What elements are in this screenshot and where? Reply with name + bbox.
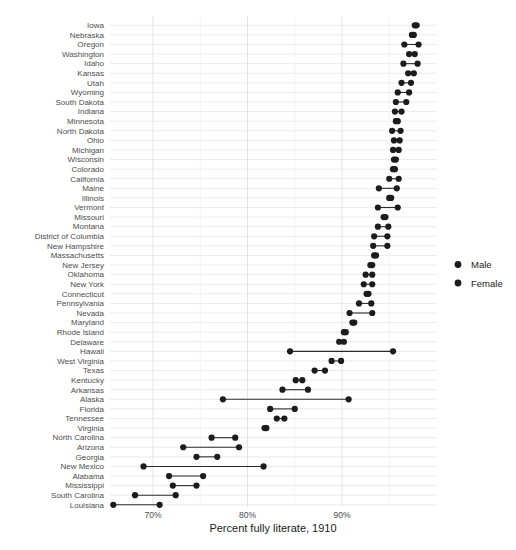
- y-axis-label: Kentucky: [71, 376, 104, 385]
- y-axis-label: North Dakota: [57, 127, 105, 136]
- legend-female-dot-icon: [455, 280, 462, 287]
- state-row: [391, 156, 399, 162]
- y-axis-label: Mississippi: [65, 481, 104, 490]
- y-axis-label: New Mexico: [60, 462, 104, 471]
- female-dot: [287, 348, 293, 354]
- female-dot: [311, 367, 317, 373]
- male-dot: [369, 310, 375, 316]
- female-dot: [166, 473, 172, 479]
- y-axis-label: Ohio: [87, 136, 104, 145]
- state-row: [363, 291, 371, 297]
- state-row: [193, 454, 220, 460]
- male-dot: [299, 377, 305, 383]
- male-dot: [385, 224, 391, 230]
- female-dot: [140, 463, 146, 469]
- female-dot: [406, 51, 412, 57]
- state-row: [400, 61, 420, 67]
- state-row: [370, 243, 390, 249]
- y-axis-label: Massachusetts: [51, 251, 104, 260]
- y-axis-label: Alabama: [72, 472, 104, 481]
- y-axis-label: Tennessee: [65, 414, 104, 423]
- male-dot: [393, 156, 399, 162]
- state-row: [380, 214, 388, 220]
- male-dot: [394, 185, 400, 191]
- gridlines: [110, 16, 437, 507]
- plot-svg: IowaNebraskaOregonWashingtonIdahoKansasU…: [0, 0, 516, 550]
- female-dot: [398, 80, 404, 86]
- state-row: [361, 281, 376, 287]
- female-dot: [370, 243, 376, 249]
- y-axis-label: Georgia: [76, 453, 105, 462]
- x-axis-tick-label: 90%: [333, 510, 350, 520]
- female-dot: [395, 89, 401, 95]
- male-dot: [414, 22, 420, 28]
- y-axis-label: Indiana: [78, 107, 105, 116]
- male-dot: [341, 339, 347, 345]
- male-dot: [390, 348, 396, 354]
- female-dot: [267, 406, 273, 412]
- male-dot: [214, 454, 220, 460]
- female-dot: [391, 137, 397, 143]
- y-axis-label: Oregon: [77, 40, 104, 49]
- male-dot: [382, 214, 388, 220]
- male-dot: [392, 166, 398, 172]
- male-dot: [232, 435, 238, 441]
- y-axis-label: Wisconsin: [68, 155, 104, 164]
- state-row: [180, 444, 242, 450]
- male-dot: [388, 195, 394, 201]
- y-axis-label: Michigan: [72, 146, 104, 155]
- male-dot: [406, 89, 412, 95]
- legend-male-dot-icon: [455, 261, 462, 268]
- y-axis-label: West Virginia: [57, 357, 104, 366]
- male-dot: [281, 415, 287, 421]
- male-dot: [263, 425, 269, 431]
- male-dot: [396, 147, 402, 153]
- state-row: [405, 70, 417, 76]
- state-row: [376, 185, 400, 191]
- female-dot: [329, 358, 335, 364]
- male-dot: [384, 243, 390, 249]
- male-dot: [343, 329, 349, 335]
- y-axis-label: South Dakota: [56, 98, 105, 107]
- male-dot: [200, 473, 206, 479]
- y-axis-label: Virginia: [77, 424, 104, 433]
- y-axis-label: Rhode Island: [57, 328, 104, 337]
- male-dot: [322, 367, 328, 373]
- male-dot: [369, 262, 375, 268]
- state-row: [393, 118, 401, 124]
- legend-male-label: Male: [471, 259, 492, 270]
- y-axis-label: Louisiana: [70, 501, 105, 510]
- female-dot: [392, 109, 398, 115]
- state-row: [329, 358, 345, 364]
- y-axis-label: Missouri: [74, 213, 104, 222]
- state-row: [412, 22, 420, 28]
- female-dot: [356, 300, 362, 306]
- y-axis-label: New Jersey: [62, 261, 104, 270]
- x-axis-tick-label: 70%: [144, 510, 161, 520]
- state-row: [356, 300, 374, 306]
- male-dot: [157, 502, 163, 508]
- y-axis-label: Kansas: [77, 69, 104, 78]
- state-row: [311, 367, 328, 373]
- male-dot: [173, 492, 179, 498]
- legend-female-label: Female: [471, 278, 503, 289]
- male-dot: [305, 387, 311, 393]
- female-dot: [193, 454, 199, 460]
- y-axis-label: Colorado: [72, 165, 105, 174]
- state-row: [346, 310, 375, 316]
- male-dot: [395, 204, 401, 210]
- state-row: [261, 425, 269, 431]
- state-row: [401, 41, 421, 47]
- female-dot: [405, 70, 411, 76]
- male-dot: [346, 396, 352, 402]
- y-axis-label: Washington: [62, 50, 104, 59]
- y-axis-label: California: [70, 175, 104, 184]
- state-row: [267, 406, 298, 412]
- literacy-dumbbell-chart: IowaNebraskaOregonWashingtonIdahoKansasU…: [0, 0, 516, 550]
- male-dot: [396, 176, 402, 182]
- state-row: [349, 319, 357, 325]
- x-axis-tick-labels: 70%80%90%: [144, 510, 350, 520]
- female-dot: [346, 310, 352, 316]
- state-row: [371, 233, 390, 239]
- male-dot: [193, 483, 199, 489]
